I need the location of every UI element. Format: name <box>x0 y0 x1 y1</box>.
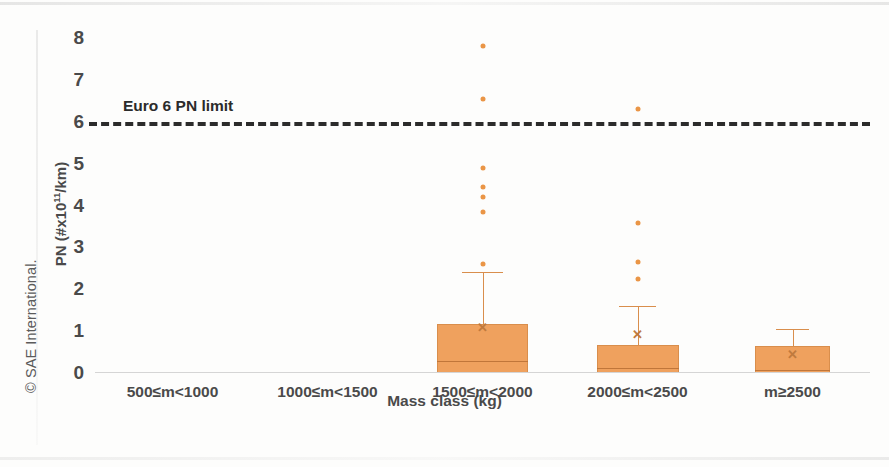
mean-marker-x: ✕ <box>787 348 798 361</box>
x-axis-line <box>95 372 870 373</box>
x-axis-title: Mass class (kg) <box>0 392 889 410</box>
y-axis-tick-label: 7 <box>73 69 84 91</box>
y-axis-title-exponent: 11 <box>51 193 62 203</box>
copyright-notice: © SAE International. <box>23 223 39 393</box>
y-axis-tick-label: 1 <box>73 320 84 342</box>
y-axis-tick-label: 2 <box>73 278 84 300</box>
y-axis-tick-label: 5 <box>73 153 84 175</box>
y-axis-tick-label: 8 <box>73 27 84 49</box>
whisker-line <box>793 329 794 346</box>
y-axis-title-suffix: /km) <box>52 162 69 193</box>
whisker-cap <box>776 329 810 330</box>
y-axis-tick-label: 6 <box>73 111 84 133</box>
y-axis-tick-label: 0 <box>73 362 84 384</box>
plot-area: 012345678 Euro 6 PN limit ✕✕✕ 500≤m<1000… <box>95 38 870 373</box>
y-axis-title: PN (#x1011/km) <box>51 124 69 304</box>
scan-artifact-bottom <box>0 457 889 460</box>
y-axis-tick-label: 4 <box>73 195 84 217</box>
y-axis-title-prefix: PN (#x10 <box>52 203 69 266</box>
scan-artifact-top <box>0 2 889 5</box>
box-plot: ✕ <box>95 38 870 373</box>
y-axis-tick-label: 3 <box>73 236 84 258</box>
